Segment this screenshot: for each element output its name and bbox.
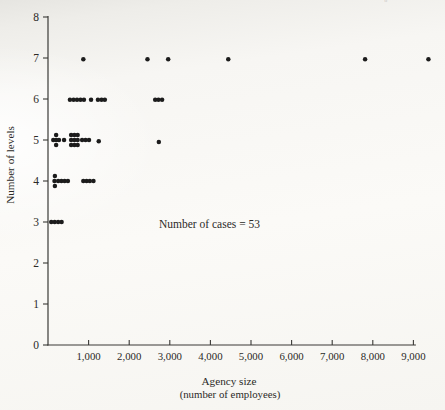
scan-artifact: ◦	[384, 0, 388, 6]
data-point	[54, 133, 59, 138]
data-point	[53, 184, 58, 189]
y-tick-label: 4	[33, 175, 39, 187]
x-tick-label: 7,000	[320, 350, 344, 362]
data-point	[75, 143, 80, 148]
y-tick-label: 1	[33, 298, 39, 310]
x-tick-label: 4,000	[198, 350, 222, 362]
data-point	[87, 138, 92, 143]
y-tick-label: 3	[33, 216, 39, 228]
data-point	[81, 57, 86, 62]
x-tick-label: 6,000	[279, 350, 303, 362]
data-point	[75, 138, 80, 143]
x-tick-label: 8,000	[361, 350, 385, 362]
annotation-text: Number of cases = 53	[159, 218, 260, 230]
y-tick-label: 8	[33, 11, 39, 23]
y-tick-label: 0	[33, 339, 39, 351]
data-point	[145, 57, 150, 62]
data-point	[54, 143, 59, 148]
data-point	[66, 179, 71, 184]
y-tick-label: 5	[33, 134, 39, 146]
y-tick-label: 2	[33, 257, 39, 269]
data-point	[59, 220, 64, 225]
data-point	[75, 133, 80, 138]
x-tick-label: 1,000	[76, 350, 100, 362]
data-point	[97, 139, 102, 144]
y-axis-title: Number of levels	[4, 126, 16, 204]
x-tick-label: 2,000	[117, 350, 141, 362]
data-point	[82, 98, 87, 103]
x-tick-label: 3,000	[158, 350, 182, 362]
data-point	[91, 179, 96, 184]
data-point	[363, 57, 368, 62]
data-point	[89, 98, 94, 103]
data-point	[166, 57, 171, 62]
data-point	[426, 57, 431, 62]
data-point	[103, 98, 108, 103]
data-point	[226, 57, 231, 62]
y-tick-label: 7	[33, 52, 39, 64]
data-point	[157, 140, 162, 145]
x-axis-title: Agency size	[202, 375, 257, 387]
data-point	[62, 138, 67, 143]
data-point	[53, 174, 58, 179]
scatter-chart: 0123456781,0002,0003,0004,0005,0006,0007…	[0, 0, 445, 410]
scatter-plot-figure: ◦ 0123456781,0002,0003,0004,0005,0006,00…	[0, 0, 445, 410]
data-point	[160, 98, 165, 103]
data-point	[57, 138, 62, 143]
x-axis-subtitle: (number of employees)	[180, 388, 281, 401]
y-tick-label: 6	[33, 93, 39, 105]
x-tick-label: 5,000	[239, 350, 263, 362]
x-tick-label: 9,000	[401, 350, 425, 362]
